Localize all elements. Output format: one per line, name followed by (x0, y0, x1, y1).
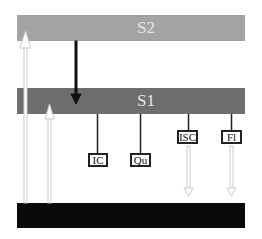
fl-down-arrow (227, 146, 236, 196)
isc-box: ISC (177, 130, 198, 144)
arrows-layer (0, 0, 262, 239)
excitation-arrow-s1 (45, 104, 54, 203)
excitation-arrow-s2 (20, 31, 31, 203)
fl-box: Fl (221, 130, 242, 144)
ic-box: IC (88, 153, 108, 167)
qu-box: Qu (130, 153, 151, 167)
isc-down-arrow (184, 146, 193, 196)
relaxation-arrow-s2-s1 (71, 41, 81, 104)
